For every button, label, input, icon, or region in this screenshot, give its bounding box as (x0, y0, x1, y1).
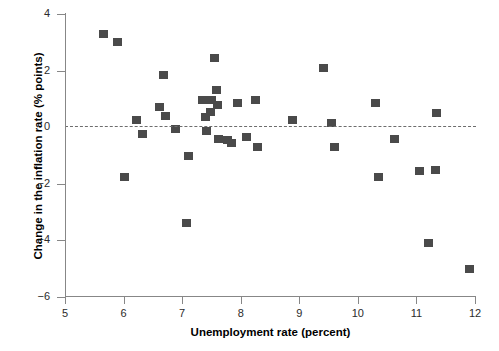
y-tick (57, 184, 65, 185)
data-point (227, 139, 236, 147)
data-point (99, 30, 108, 38)
x-tick-label: 10 (338, 307, 378, 319)
x-tick (416, 297, 417, 304)
data-point (288, 116, 297, 124)
x-axis-line (65, 296, 476, 297)
x-tick (358, 297, 359, 304)
data-point (319, 64, 328, 72)
data-point (233, 99, 242, 107)
data-point (432, 109, 441, 117)
x-tick-label: 6 (104, 307, 144, 319)
data-point (159, 71, 168, 79)
data-point (371, 99, 380, 107)
data-point (182, 219, 191, 227)
y-axis-line (65, 13, 66, 297)
y-tick (57, 14, 65, 15)
data-point (212, 86, 221, 94)
x-tick-label: 7 (162, 307, 202, 319)
data-point (210, 54, 219, 62)
x-tick (241, 297, 242, 304)
data-point (251, 96, 260, 104)
x-tick (475, 297, 476, 304)
data-point (198, 96, 207, 104)
data-point (155, 103, 164, 111)
data-point (138, 130, 147, 138)
data-point (374, 173, 383, 181)
data-point (120, 173, 129, 181)
data-point (161, 112, 170, 120)
y-tick (57, 71, 65, 72)
y-tick-label: 4 (16, 7, 50, 19)
data-point (253, 143, 262, 151)
x-tick-label: 5 (45, 307, 85, 319)
data-point (214, 135, 223, 143)
data-point (424, 239, 433, 247)
data-point (113, 38, 122, 46)
data-point (242, 133, 251, 141)
plot-area (65, 14, 475, 297)
data-point (202, 127, 211, 135)
x-tick-label: 9 (279, 307, 319, 319)
x-tick (124, 297, 125, 304)
y-axis-title: Change in the inflation rate (% points) (32, 26, 44, 286)
data-point (132, 116, 141, 124)
data-point (415, 167, 424, 175)
data-point (330, 143, 339, 151)
x-tick (65, 297, 66, 304)
data-point (465, 265, 474, 273)
data-point (184, 152, 193, 160)
y-tick (57, 240, 65, 241)
data-point (390, 135, 399, 143)
y-tick-label: −6 (16, 290, 50, 302)
x-tick-label: 12 (455, 307, 495, 319)
data-point (206, 108, 215, 116)
x-axis-title: Unemployment rate (percent) (65, 326, 476, 338)
data-point (431, 166, 440, 174)
scatter-plot-figure: 56789101112 420−2−4−6 Unemployment rate … (0, 0, 499, 351)
x-tick-label: 11 (396, 307, 436, 319)
x-tick-label: 8 (221, 307, 261, 319)
y-tick (57, 297, 65, 298)
x-tick (182, 297, 183, 304)
zero-reference-line (65, 126, 476, 127)
x-tick (299, 297, 300, 304)
